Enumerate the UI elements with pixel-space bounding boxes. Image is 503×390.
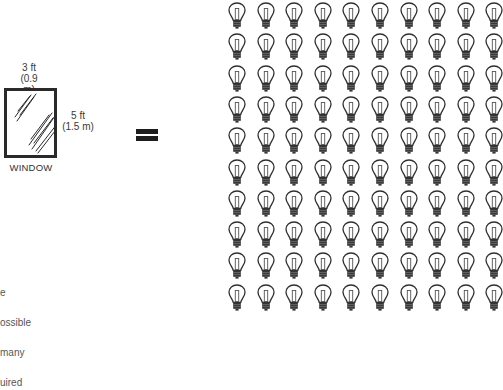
light-bulb-icon [314, 33, 332, 61]
light-bulb-icon [228, 127, 246, 155]
light-bulb-icon [257, 159, 275, 187]
light-bulb-icon [371, 96, 389, 124]
light-bulb-icon [314, 96, 332, 124]
light-bulb-icon [485, 190, 503, 218]
light-bulb-icon [371, 159, 389, 187]
light-bulb-icon [457, 221, 475, 249]
light-bulb-icon [457, 2, 475, 30]
light-bulb-icon [371, 65, 389, 93]
light-bulb-icon [485, 33, 503, 61]
light-bulb-icon [342, 252, 360, 280]
light-bulb-icon [285, 127, 303, 155]
light-bulb-icon [314, 2, 332, 30]
light-bulb-icon [428, 65, 446, 93]
light-bulb-icon [400, 190, 418, 218]
light-bulb-icon [400, 221, 418, 249]
equals-bar-top [136, 129, 158, 134]
light-bulb-icon [342, 190, 360, 218]
window-width-imperial: 3 ft [14, 62, 44, 73]
window-caption: WINDOW [6, 162, 56, 173]
light-bulb-icon [257, 221, 275, 249]
light-bulb-icon [257, 2, 275, 30]
light-bulb-icon [228, 252, 246, 280]
light-bulb-icon [428, 221, 446, 249]
light-bulb-icon [342, 65, 360, 93]
light-bulb-icon [400, 65, 418, 93]
light-bulb-icon [314, 221, 332, 249]
light-bulb-icon [400, 127, 418, 155]
light-bulb-icon [257, 65, 275, 93]
light-bulb-icon [371, 33, 389, 61]
light-bulb-icon [400, 284, 418, 312]
light-bulb-icon [485, 96, 503, 124]
light-bulb-icon [371, 252, 389, 280]
light-bulb-icon [428, 159, 446, 187]
light-bulb-icon [228, 284, 246, 312]
light-bulb-icon [314, 252, 332, 280]
light-bulb-icon [371, 284, 389, 312]
light-bulb-icon [285, 284, 303, 312]
light-bulb-icon [285, 252, 303, 280]
light-bulb-icon [257, 96, 275, 124]
light-bulb-icon [485, 252, 503, 280]
light-bulb-icon [228, 33, 246, 61]
light-bulb-icon [285, 2, 303, 30]
light-bulb-icon [428, 33, 446, 61]
window-height-label: 5 ft (1.5 m) [60, 110, 96, 132]
light-bulb-icon [428, 284, 446, 312]
clipped-caption: e ossible many uired [0, 268, 31, 390]
light-bulb-icon [257, 127, 275, 155]
light-bulb-icon [457, 96, 475, 124]
light-bulb-icon [485, 65, 503, 93]
light-bulb-icon [314, 127, 332, 155]
light-bulb-icon [428, 127, 446, 155]
light-bulb-icon [428, 96, 446, 124]
light-bulb-icon [228, 190, 246, 218]
light-bulb-icon [457, 127, 475, 155]
window-diagram [4, 88, 57, 158]
light-bulb-icon [342, 33, 360, 61]
light-bulb-icon [485, 2, 503, 30]
light-bulb-icon [400, 96, 418, 124]
light-bulb-icon [400, 33, 418, 61]
caption-line: ossible [0, 318, 31, 328]
light-bulb-icon [285, 190, 303, 218]
light-bulb-icon [400, 252, 418, 280]
light-bulb-icon [371, 221, 389, 249]
light-bulb-icon [400, 2, 418, 30]
light-bulb-icon [228, 2, 246, 30]
light-bulb-icon [314, 159, 332, 187]
light-bulb-icon [285, 159, 303, 187]
caption-line: many [0, 348, 31, 358]
light-bulb-icon [257, 284, 275, 312]
light-bulb-icon [257, 252, 275, 280]
light-bulb-icon [400, 159, 418, 187]
light-bulb-icon [371, 2, 389, 30]
light-bulb-icon [285, 65, 303, 93]
caption-line: e [0, 288, 31, 298]
window-height-imperial: 5 ft [60, 110, 96, 121]
light-bulb-icon [485, 127, 503, 155]
light-bulb-icon [342, 284, 360, 312]
light-bulb-icon [228, 65, 246, 93]
light-bulb-icon [285, 33, 303, 61]
light-bulb-icon [342, 2, 360, 30]
light-bulb-icon [342, 127, 360, 155]
light-bulb-icon [228, 96, 246, 124]
light-bulb-icon [314, 284, 332, 312]
light-bulb-icon [428, 190, 446, 218]
light-bulb-icon [257, 33, 275, 61]
light-bulb-icon [342, 221, 360, 249]
light-bulb-icon [228, 221, 246, 249]
light-bulb-icon [457, 252, 475, 280]
light-bulb-icon [314, 190, 332, 218]
light-bulb-icon [485, 284, 503, 312]
light-bulb-icon [428, 252, 446, 280]
light-bulb-icon [342, 96, 360, 124]
light-bulb-icon [285, 221, 303, 249]
light-bulb-icon [342, 159, 360, 187]
light-bulb-icon [428, 2, 446, 30]
light-bulb-icon [285, 96, 303, 124]
light-bulb-icon [485, 159, 503, 187]
window-height-metric: (1.5 m) [60, 121, 96, 132]
